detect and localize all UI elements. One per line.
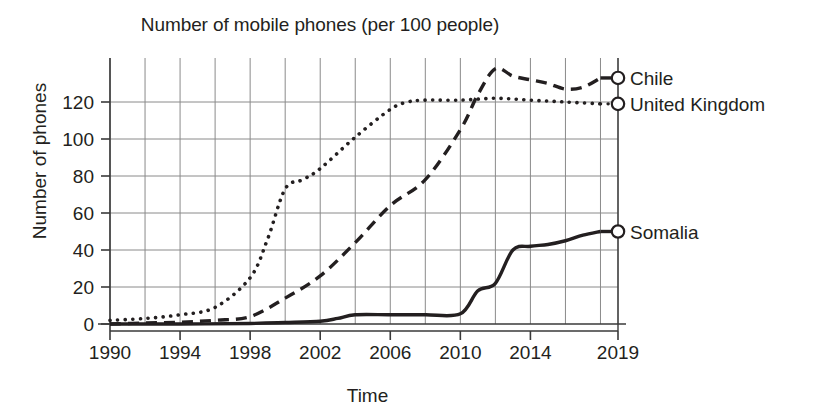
x-gridlines <box>110 58 618 324</box>
y-tick-label: 80 <box>73 166 94 187</box>
x-tick-label: 1998 <box>229 342 271 363</box>
x-tick-label: 2010 <box>439 342 481 363</box>
y-tick-label: 100 <box>62 129 94 150</box>
series-label: United Kingdom <box>630 94 765 115</box>
x-tick-label: 1990 <box>89 342 131 363</box>
data-series <box>110 68 611 324</box>
plot-area: 020406080100120 199019941998200220062010… <box>0 0 815 418</box>
y-tick-labels: 020406080100120 <box>62 92 94 335</box>
x-tick-label: 2019 <box>597 342 639 363</box>
axis-lines <box>98 58 626 331</box>
series-labels: ChileUnited KingdomSomalia <box>630 68 765 243</box>
series-label: Chile <box>630 68 673 89</box>
axis-ticks <box>101 102 618 340</box>
x-tick-label: 1994 <box>159 342 202 363</box>
y-tick-label: 40 <box>73 240 94 261</box>
series-end-marker <box>612 225 624 237</box>
series-end-marker <box>612 98 624 110</box>
x-tick-label: 2006 <box>369 342 411 363</box>
x-tick-labels: 19901994199820022006201020142019 <box>89 342 639 363</box>
series-end-marker <box>612 72 624 84</box>
y-tick-label: 120 <box>62 92 94 113</box>
y-tick-label: 60 <box>73 203 94 224</box>
y-tick-label: 0 <box>83 314 94 335</box>
y-tick-label: 20 <box>73 277 94 298</box>
x-tick-label: 2014 <box>509 342 552 363</box>
x-tick-label: 2002 <box>299 342 341 363</box>
chart-figure: Number of mobile phones (per 100 people)… <box>0 0 815 418</box>
series-label: Somalia <box>630 222 699 243</box>
